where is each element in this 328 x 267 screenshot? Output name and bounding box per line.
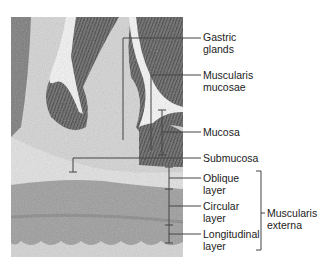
label-line: glands <box>203 43 236 55</box>
label-line: Oblique <box>203 172 239 184</box>
label-longitudinal-layer: Longitudinal layer <box>203 228 260 252</box>
label-line: Mucosa <box>203 126 240 138</box>
label-line: Submucosa <box>203 152 258 164</box>
label-line: Gastric <box>203 31 236 43</box>
label-mucosa: Mucosa <box>203 126 240 138</box>
label-muscularis-mucosae: Muscularis mucosae <box>203 69 253 93</box>
label-line: layer <box>203 240 260 252</box>
label-line: layer <box>203 184 239 196</box>
label-gastric-glands: Gastric glands <box>203 31 236 55</box>
label-oblique-layer: Oblique layer <box>203 172 239 196</box>
label-line: Longitudinal <box>203 228 260 240</box>
label-line: Circular <box>203 200 239 212</box>
label-line: externa <box>267 219 317 231</box>
label-muscularis-externa: Muscularis externa <box>267 207 317 231</box>
label-line: Muscularis <box>267 207 317 219</box>
label-submucosa: Submucosa <box>203 152 258 164</box>
label-line: mucosae <box>203 81 253 93</box>
label-circular-layer: Circular layer <box>203 200 239 224</box>
label-line: layer <box>203 212 239 224</box>
label-line: Muscularis <box>203 69 253 81</box>
